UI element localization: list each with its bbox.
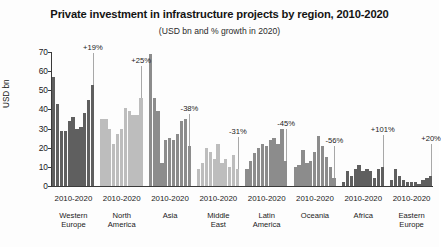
x-group-label-latin-america: 2010-2020LatinAmerica [248,194,286,230]
bar [421,180,424,186]
bar [153,98,156,186]
growth-label-latin-america: -45% [277,119,295,128]
bar [377,169,380,186]
region-name-line: America [248,221,286,230]
bar [305,163,308,186]
bar [373,178,376,186]
region-name: Oceania [296,212,334,221]
annotation-leader-line [286,129,287,161]
bar [68,121,71,186]
region-name: EasternEurope [393,212,431,230]
bar [245,169,248,186]
bar [128,111,131,186]
bar [52,77,55,186]
bar [369,171,372,186]
bar [365,169,368,186]
annotation-leader-line [238,137,239,169]
x-range-label: 2010-2020 [199,194,237,203]
bar-group-western-europe [52,52,95,186]
bar [205,148,208,186]
bar [402,180,405,186]
y-tick-label: 10 [39,162,48,172]
chart-title: Private investment in infrastructure pro… [0,8,439,20]
bar [75,129,78,186]
bar [297,165,300,186]
y-tick-label: 30 [39,124,48,134]
bar [425,178,428,186]
region-name: Asia [151,212,189,221]
x-range-label: 2010-2020 [151,194,189,203]
bar-group-asia [149,52,192,186]
bar [64,131,67,187]
bar [224,159,227,186]
bar [188,146,191,186]
bar [429,176,432,186]
bar [381,167,384,186]
bar [228,167,231,186]
bar [261,144,264,186]
bar [301,150,304,186]
annotation-leader-line [383,135,384,167]
bar [361,171,364,186]
bar [184,119,187,186]
bar [108,129,111,186]
x-group-label-oceania: 2010-2020Oceania [296,194,334,221]
x-group-label-asia: 2010-2020Asia [151,194,189,221]
bar [253,153,256,186]
region-name-line: Asia [151,212,189,221]
bar [272,138,275,186]
bar [149,54,152,186]
chart-subtitle: (USD bn and % growth in 2020) [0,26,439,36]
y-tick-label: 60 [39,66,48,76]
bar [160,163,163,186]
region-name-line: Europe [55,221,93,230]
x-group-label-eastern-europe: 2010-2020EasternEurope [393,194,431,230]
region-name-line: Oceania [296,212,334,221]
bar [120,129,123,186]
bar [390,180,393,186]
bar [91,85,94,186]
bar [249,161,252,186]
bar [410,182,413,186]
bar [329,167,332,186]
bar-group-north-america [100,52,143,186]
growth-label-eastern-europe: +20% [421,134,441,143]
bar [332,178,335,186]
bar-group-africa [342,52,385,186]
y-tick-label: 70 [39,47,48,57]
bar [321,146,324,186]
x-range-label: 2010-2020 [103,194,141,203]
bar [236,169,239,186]
bar [71,117,74,186]
region-name: MiddleEast [199,212,237,230]
bar [104,119,107,186]
bar [357,165,360,186]
bar [60,131,63,187]
bar [346,171,349,186]
region-name-line: America [103,221,141,230]
bar [100,119,103,186]
annotation-leader-line [431,144,432,176]
bar [156,111,159,186]
bar [124,108,127,186]
x-range-label: 2010-2020 [248,194,286,203]
bar [216,144,219,186]
annotation-leader-line [141,66,142,98]
growth-label-asia: -38% [181,104,199,113]
bar [87,100,90,186]
bar [350,176,353,186]
bar [116,134,119,186]
growth-label-middle-east: -31% [229,127,247,136]
bar [176,134,179,186]
bar [257,148,260,186]
annotation-leader-line [93,53,94,85]
bar-group-middle-east [197,52,240,186]
growth-label-western-europe: +19% [83,43,103,52]
bar [168,138,171,186]
bar [342,182,345,186]
growth-label-oceania: -56% [326,136,344,145]
bar [294,167,297,186]
bar [309,161,312,186]
region-name-line: Europe [393,221,431,230]
growth-label-africa: +101% [371,125,395,134]
